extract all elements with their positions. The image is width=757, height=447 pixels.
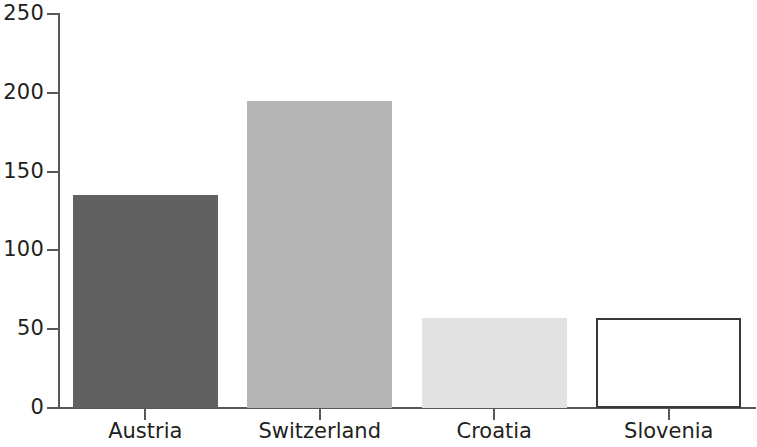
y-axis-tick xyxy=(47,407,58,409)
plot-area: 250200150100500 AustriaSwitzerlandCroati… xyxy=(0,0,757,447)
bar-croatia xyxy=(422,318,567,408)
x-axis-tick-label-croatia: Croatia xyxy=(457,419,533,444)
bar-chart: 250200150100500 AustriaSwitzerlandCroati… xyxy=(0,0,757,447)
y-axis-tick-label: 150 xyxy=(0,161,44,182)
x-axis-tick-label-switzerland: Switzerland xyxy=(259,419,382,444)
bar-switzerland xyxy=(247,101,392,408)
y-axis-line xyxy=(58,13,60,409)
y-axis-tick xyxy=(47,92,58,94)
y-axis-tick-label: 200 xyxy=(0,82,44,103)
y-axis-tick-label: 250 xyxy=(0,3,44,24)
y-axis-tick xyxy=(47,171,58,173)
y-axis-tick-label: 0 xyxy=(0,397,44,418)
bar-austria xyxy=(73,195,218,408)
bar-slovenia xyxy=(596,318,741,408)
x-axis-tick-label-slovenia: Slovenia xyxy=(624,419,713,444)
y-axis-tick xyxy=(47,13,58,15)
y-axis-tick-labels: 250200150100500 xyxy=(0,0,44,447)
x-axis-tick-label-austria: Austria xyxy=(108,419,182,444)
y-axis-tick-label: 50 xyxy=(0,318,44,339)
y-axis-tick xyxy=(47,249,58,251)
y-axis-tick-label: 100 xyxy=(0,239,44,260)
y-axis-tick xyxy=(47,328,58,330)
